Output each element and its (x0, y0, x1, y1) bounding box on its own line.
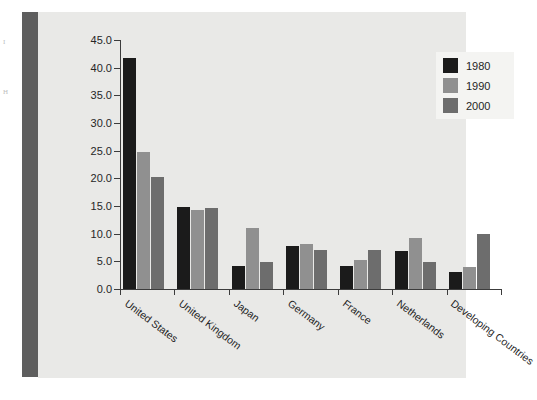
x-axis-tick-mark (501, 289, 502, 295)
y-axis-tick-label: 0.0 (72, 283, 112, 295)
margin-mark-2: H (3, 88, 8, 96)
x-axis-tick-mark (229, 289, 230, 295)
y-axis-tick-mark (114, 178, 120, 179)
x-axis-line (120, 289, 501, 290)
bar (260, 262, 273, 289)
y-axis-tick-mark (114, 151, 120, 152)
y-axis-tick-labels: 45.040.035.030.025.020.015.010.05.00.0 (68, 12, 112, 378)
x-axis-tick-mark (338, 289, 339, 295)
x-axis-category-label: Developing Countries (449, 297, 536, 367)
y-axis-tick-mark (114, 289, 120, 290)
y-axis-tick-label: 15.0 (72, 200, 112, 212)
legend-label: 1990 (466, 80, 490, 92)
bar (191, 210, 204, 289)
bar-group (340, 40, 381, 289)
y-axis-tick-label: 30.0 (72, 117, 112, 129)
bar (205, 208, 218, 289)
bar-group (177, 40, 218, 289)
y-axis-tick-mark (114, 68, 120, 69)
bar (314, 250, 327, 289)
x-axis-tick-mark (174, 289, 175, 295)
bar (123, 58, 136, 289)
y-axis-tick-label: 25.0 (72, 145, 112, 157)
legend-label: 1980 (466, 60, 490, 72)
legend-swatch-icon (443, 78, 458, 93)
bar (300, 244, 313, 289)
x-axis-category-label: Netherlands (395, 297, 447, 341)
y-axis-tick-label: 5.0 (72, 255, 112, 267)
bar (395, 251, 408, 289)
legend-item: 1990 (443, 78, 508, 93)
bar (463, 267, 476, 289)
y-axis-tick-mark (114, 40, 120, 41)
bar-chart-figure: 45.040.035.030.025.020.015.010.05.00.0 U… (38, 12, 466, 378)
y-axis-tick-label: 40.0 (72, 62, 112, 74)
x-axis-tick-mark (120, 289, 121, 295)
bar (151, 177, 164, 289)
x-axis-tick-mark (447, 289, 448, 295)
bar-group (395, 40, 436, 289)
bar (409, 238, 422, 289)
x-axis-category-label: Germany (286, 297, 328, 333)
bar-group (286, 40, 327, 289)
bar-group (232, 40, 273, 289)
bar (449, 272, 462, 289)
y-axis-tick-label: 45.0 (72, 34, 112, 46)
bar (246, 228, 259, 289)
margin-mark-1: I (3, 38, 5, 46)
legend-item: 1980 (443, 58, 508, 73)
x-axis-tick-mark (283, 289, 284, 295)
y-axis-tick-label: 20.0 (72, 172, 112, 184)
bar (177, 207, 190, 289)
y-axis-tick-label: 35.0 (72, 89, 112, 101)
x-axis-tick-mark (392, 289, 393, 295)
bar (137, 152, 150, 289)
legend-swatch-icon (443, 98, 458, 113)
chart-legend: 198019902000 (436, 52, 514, 119)
x-axis-category-label: United States (123, 297, 181, 345)
bar (286, 246, 299, 289)
bar (368, 250, 381, 289)
x-axis-category-label: Japan (231, 297, 261, 324)
legend-item: 2000 (443, 98, 508, 113)
page-binding-stripe (22, 12, 38, 377)
bar (477, 234, 490, 289)
legend-swatch-icon (443, 58, 458, 73)
legend-label: 2000 (466, 100, 490, 112)
y-axis-tick-mark (114, 261, 120, 262)
bar-group (123, 40, 164, 289)
bar (354, 260, 367, 289)
bar (423, 262, 436, 289)
bar (340, 266, 353, 289)
x-axis-category-label: France (340, 297, 373, 326)
y-axis-tick-mark (114, 206, 120, 207)
y-axis-tick-mark (114, 123, 120, 124)
bar (232, 266, 245, 289)
y-axis-tick-mark (114, 95, 120, 96)
y-axis-tick-mark (114, 234, 120, 235)
y-axis-tick-label: 10.0 (72, 228, 112, 240)
